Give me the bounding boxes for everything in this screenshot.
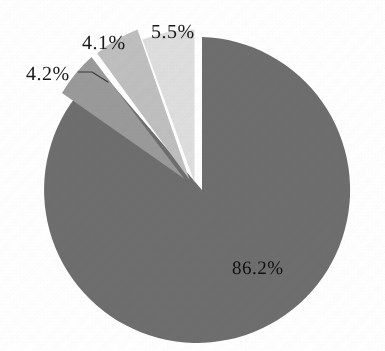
pie-label-4-2: 4.2%	[26, 63, 70, 86]
pie-chart-figure: 86.2% 5.5% 4.1% 4.2%	[0, 0, 385, 351]
pie-label-4-1: 4.1%	[82, 32, 126, 55]
pie-chart-canvas	[0, 0, 385, 351]
pie-label-86-2: 86.2%	[232, 258, 284, 280]
pie-label-5-5: 5.5%	[151, 21, 195, 44]
